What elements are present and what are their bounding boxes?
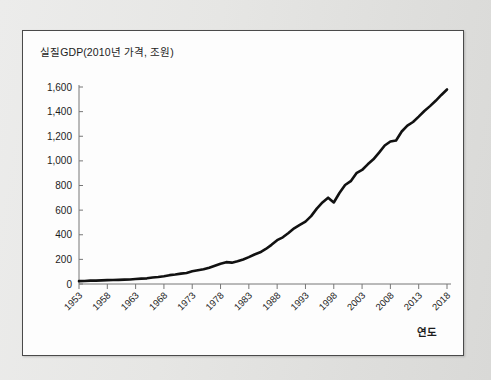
x-tick-label: 1968 bbox=[147, 290, 170, 313]
y-tick-label: 200 bbox=[55, 254, 72, 265]
y-tick-label: 600 bbox=[55, 205, 72, 216]
x-axis-title: 연도 bbox=[417, 324, 437, 339]
gdp-line bbox=[79, 89, 447, 281]
y-tick-label: 0 bbox=[66, 279, 72, 290]
x-tick-label: 2013 bbox=[401, 290, 424, 313]
x-tick-label: 1973 bbox=[175, 290, 198, 313]
figure-panel: 실질GDP(2010년 가격, 조원) 02004006008001,0001,… bbox=[22, 30, 464, 356]
x-tick-label: 2018 bbox=[430, 290, 453, 313]
y-tick-label: 1,400 bbox=[47, 106, 72, 117]
x-tick-label: 2003 bbox=[345, 290, 368, 313]
gdp-line-chart: 02004006008001,0001,2001,4001,600 195319… bbox=[23, 31, 465, 357]
x-tick-label: 1958 bbox=[90, 290, 113, 313]
x-tick-label: 1953 bbox=[62, 290, 85, 313]
x-tick-label: 2008 bbox=[373, 290, 396, 313]
x-tick-label: 1963 bbox=[118, 290, 141, 313]
y-axis: 02004006008001,0001,2001,4001,600 bbox=[47, 82, 83, 290]
x-tick-label: 1998 bbox=[316, 290, 339, 313]
x-tick-label: 1978 bbox=[203, 290, 226, 313]
y-tick-label: 800 bbox=[55, 180, 72, 191]
y-tick-label: 1,000 bbox=[47, 155, 72, 166]
x-tick-label: 1983 bbox=[232, 290, 255, 313]
y-tick-label: 1,600 bbox=[47, 82, 72, 93]
x-tick-label: 1993 bbox=[288, 290, 311, 313]
y-tick-label: 1,200 bbox=[47, 131, 72, 142]
y-tick-label: 400 bbox=[55, 229, 72, 240]
x-tick-label: 1988 bbox=[260, 290, 283, 313]
x-axis: 1953195819631968197319781983198819931998… bbox=[62, 284, 453, 312]
data-series-line bbox=[79, 89, 447, 281]
